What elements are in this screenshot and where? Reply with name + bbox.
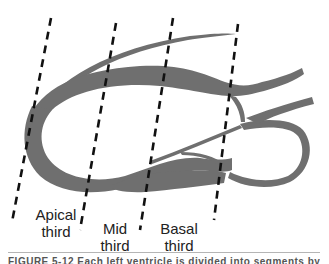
upper-thick-wall bbox=[28, 66, 304, 120]
myocardium bbox=[24, 33, 314, 192]
divider-line-2 bbox=[80, 23, 116, 230]
upper-branch bbox=[246, 97, 314, 124]
label-mid: Mid third bbox=[95, 220, 135, 254]
label-mid-line1: Mid bbox=[95, 220, 135, 237]
figure-caption: FIGURE 5-12 Each left ventricle is divid… bbox=[8, 255, 320, 264]
label-basal: Basal third bbox=[153, 220, 205, 254]
lower-wall bbox=[110, 171, 226, 192]
label-basal-line1: Basal bbox=[153, 220, 205, 237]
label-apical-line2: third bbox=[28, 223, 84, 240]
label-apical-line1: Apical bbox=[28, 206, 84, 223]
divider-lines bbox=[12, 18, 238, 230]
caption-divider bbox=[8, 252, 320, 253]
root-loop bbox=[228, 120, 310, 187]
connector bbox=[229, 95, 245, 122]
label-apical: Apical third bbox=[28, 206, 84, 240]
divider-line-4 bbox=[214, 24, 238, 220]
